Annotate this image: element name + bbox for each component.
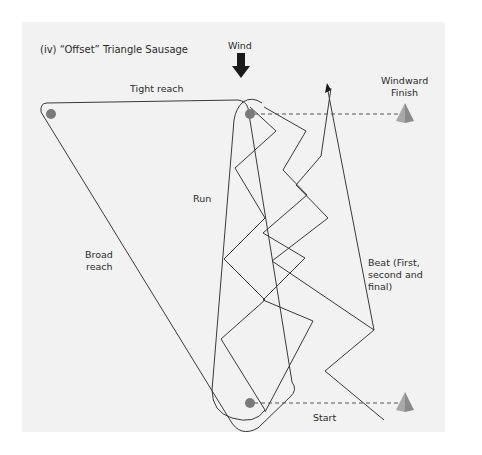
run-label: Run [193, 193, 211, 204]
beat-label-line3: final) [368, 281, 392, 292]
broad-reach-label-line1: Broad [85, 249, 113, 260]
windward-finish-label-line2: Finish [391, 87, 418, 98]
broad-reach-label-line2: reach [86, 261, 113, 272]
leeward-mark-buoy-icon [245, 398, 255, 408]
beat-label-line1: Beat (First, [368, 257, 420, 268]
tight-reach-label: Tight reach [129, 83, 184, 94]
beat-label-line2: second and [368, 269, 423, 280]
wing-mark-buoy-icon [46, 109, 56, 119]
course-diagram: (iv) “Offset” Triangle Sausage Wind Tigh… [0, 0, 482, 455]
windward-mark-buoy-icon [245, 109, 255, 119]
wind-label: Wind [228, 40, 252, 51]
windward-finish-label-line1: Windward [381, 75, 428, 86]
diagram-title: (iv) “Offset” Triangle Sausage [40, 44, 188, 55]
start-label: Start [313, 412, 336, 423]
